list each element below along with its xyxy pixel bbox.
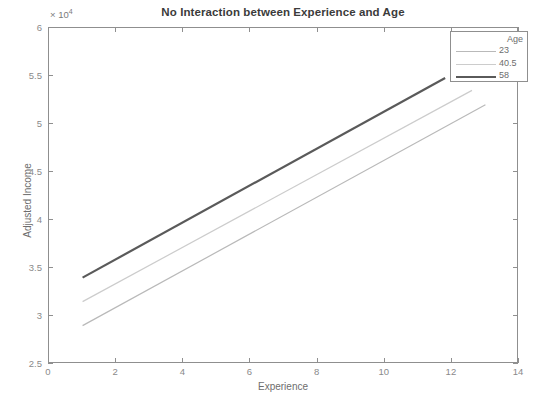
y-tick-label: 5.5 bbox=[0, 70, 42, 81]
x-tick-label: 6 bbox=[234, 366, 264, 377]
chart-title: No Interaction between Experience and Ag… bbox=[48, 6, 518, 18]
x-tick-label: 12 bbox=[436, 366, 466, 377]
x-tick-label: 8 bbox=[302, 366, 332, 377]
y-tick-mark bbox=[48, 171, 53, 172]
x-tick-mark bbox=[451, 358, 452, 363]
legend-line-sample bbox=[456, 76, 496, 78]
x-tick-mark bbox=[182, 358, 183, 363]
x-tick-label: 10 bbox=[369, 366, 399, 377]
legend-entry[interactable]: 40.5 bbox=[451, 58, 529, 70]
plot-area bbox=[48, 27, 518, 363]
x-tick-mark bbox=[317, 27, 318, 32]
x-tick-label: 2 bbox=[100, 366, 130, 377]
series-line-23 bbox=[83, 105, 486, 326]
y-tick-mark bbox=[48, 363, 53, 364]
y-tick-label: 6 bbox=[0, 22, 42, 33]
x-tick-mark bbox=[182, 27, 183, 32]
x-tick-mark bbox=[115, 27, 116, 32]
x-tick-label: 0 bbox=[33, 366, 63, 377]
y-tick-mark bbox=[513, 171, 518, 172]
x-tick-mark bbox=[317, 358, 318, 363]
series-line-58 bbox=[83, 78, 446, 278]
legend-line-sample bbox=[456, 51, 496, 52]
y-axis-multiplier-exponent: 4 bbox=[69, 8, 73, 15]
y-tick-mark bbox=[513, 219, 518, 220]
plot-lines-svg bbox=[49, 28, 519, 364]
x-tick-label: 14 bbox=[503, 366, 533, 377]
x-tick-mark bbox=[384, 27, 385, 32]
x-tick-mark bbox=[518, 358, 519, 363]
y-tick-mark bbox=[48, 315, 53, 316]
y-tick-mark bbox=[513, 267, 518, 268]
y-tick-label: 3 bbox=[0, 310, 42, 321]
x-tick-mark bbox=[384, 358, 385, 363]
y-tick-mark bbox=[48, 75, 53, 76]
x-tick-mark bbox=[48, 27, 49, 32]
y-tick-label: 5 bbox=[0, 118, 42, 129]
x-axis-label: Experience bbox=[48, 381, 518, 392]
figure-canvas: No Interaction between Experience and Ag… bbox=[0, 0, 537, 397]
y-tick-mark bbox=[513, 123, 518, 124]
series-line-40.5 bbox=[83, 90, 472, 301]
y-tick-mark bbox=[513, 363, 518, 364]
y-axis-multiplier-label: × 104 bbox=[50, 8, 73, 20]
y-tick-mark bbox=[48, 267, 53, 268]
legend-entry[interactable]: 23 bbox=[451, 45, 529, 57]
x-tick-mark bbox=[115, 358, 116, 363]
legend-entry-label: 23 bbox=[499, 45, 509, 55]
x-tick-mark bbox=[249, 27, 250, 32]
legend-box: Age 2340.558 bbox=[450, 31, 528, 82]
legend-entry-label: 40.5 bbox=[499, 58, 517, 68]
x-tick-mark bbox=[249, 358, 250, 363]
series-group bbox=[83, 78, 486, 326]
legend-entry-label: 58 bbox=[499, 70, 509, 80]
legend-line-sample bbox=[456, 64, 496, 65]
y-tick-mark bbox=[513, 315, 518, 316]
x-tick-mark bbox=[48, 358, 49, 363]
x-tick-label: 4 bbox=[167, 366, 197, 377]
y-axis-label: Adjusted Income bbox=[22, 136, 33, 266]
legend-entry[interactable]: 58 bbox=[451, 70, 529, 82]
legend-title: Age bbox=[507, 34, 523, 44]
y-tick-mark bbox=[48, 219, 53, 220]
y-tick-mark bbox=[48, 123, 53, 124]
